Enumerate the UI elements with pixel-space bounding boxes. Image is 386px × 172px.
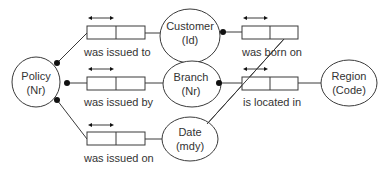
mandatory-dot-icon bbox=[64, 80, 70, 86]
fact-issued-by-label: was issued by bbox=[83, 96, 154, 108]
arrow-head-left-icon bbox=[243, 67, 247, 71]
fact-born-on-label: was born on bbox=[241, 46, 302, 58]
entity-branch[interactable]: Branch (Nr) bbox=[163, 61, 221, 107]
entity-date-ref: (mdy) bbox=[176, 140, 204, 152]
entity-region-shape[interactable] bbox=[321, 60, 377, 106]
mandatory-dot-icon bbox=[54, 97, 60, 103]
entity-date-shape[interactable] bbox=[162, 117, 218, 161]
mandatory-dot-icon bbox=[220, 29, 226, 35]
arrow-head-left-icon bbox=[88, 67, 92, 71]
entity-customer[interactable]: Customer (Id) bbox=[160, 9, 220, 63]
fact-issued-on-label: was issued on bbox=[83, 152, 154, 164]
entity-branch-ref: (Nr) bbox=[182, 85, 201, 97]
entity-policy-ref: (Nr) bbox=[27, 84, 46, 96]
arrow-head-left-icon bbox=[88, 16, 92, 20]
fact-issued-to-label: was issued to bbox=[83, 46, 151, 58]
entity-customer-ref: (Id) bbox=[182, 34, 199, 46]
entity-region-ref: (Code) bbox=[332, 84, 366, 96]
entity-date-name: Date bbox=[178, 126, 201, 138]
arrow-head-right-icon bbox=[264, 67, 268, 71]
entity-policy-name: Policy bbox=[21, 70, 51, 82]
fact-located-in[interactable]: is located in bbox=[242, 67, 301, 108]
arrow-head-left-icon bbox=[88, 123, 92, 127]
entity-policy-shape[interactable] bbox=[12, 57, 60, 107]
fact-located-in-label: is located in bbox=[243, 96, 301, 108]
entity-customer-name: Customer bbox=[166, 20, 214, 32]
arrow-head-right-icon bbox=[264, 16, 268, 20]
fact-issued-on[interactable]: was issued on bbox=[83, 123, 154, 164]
mandatory-dot-icon bbox=[216, 80, 222, 86]
fact-born-on[interactable]: was born on bbox=[241, 16, 302, 58]
arrow-head-right-icon bbox=[110, 123, 114, 127]
connector-policy-issued-to bbox=[57, 33, 87, 63]
entity-policy[interactable]: Policy (Nr) bbox=[12, 57, 60, 107]
entity-branch-shape[interactable] bbox=[163, 61, 221, 107]
fact-issued-to[interactable]: was issued to bbox=[83, 16, 151, 58]
orm-diagram: Policy (Nr) Customer (Id) Branch (Nr) Da… bbox=[0, 0, 386, 172]
arrow-head-right-icon bbox=[110, 67, 114, 71]
entity-region-name: Region bbox=[332, 70, 367, 82]
entity-date[interactable]: Date (mdy) bbox=[162, 117, 218, 161]
mandatory-dot-icon bbox=[54, 60, 60, 66]
arrow-head-left-icon bbox=[243, 16, 247, 20]
entity-branch-name: Branch bbox=[174, 71, 209, 83]
fact-issued-by[interactable]: was issued by bbox=[83, 67, 154, 108]
connector-policy-issued-on bbox=[57, 100, 87, 139]
arrow-head-right-icon bbox=[110, 16, 114, 20]
entity-region[interactable]: Region (Code) bbox=[321, 60, 377, 106]
